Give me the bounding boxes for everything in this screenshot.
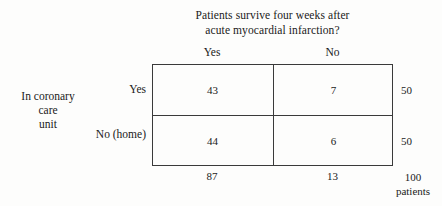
table-cell-yes-no: 7	[274, 65, 393, 115]
column-header-no: No	[272, 46, 393, 58]
grand-total-unit: patients	[385, 184, 441, 198]
contingency-table-figure: Patients survive four weeks after acute …	[0, 0, 442, 206]
column-header-yes: Yes	[152, 46, 272, 58]
row-header-yes: Yes	[60, 83, 146, 95]
column-total-no: 13	[272, 170, 393, 182]
row-total-no-home: 50	[401, 135, 435, 147]
column-group-title-line-1: Patients survive four weeks after	[152, 8, 393, 23]
column-group-title: Patients survive four weeks after acute …	[152, 8, 393, 38]
row-total-yes: 50	[401, 84, 435, 96]
row-group-label-line-2: care	[8, 103, 88, 117]
grand-total: 100 patients	[385, 170, 441, 198]
table-grid: 43 7 44 6	[152, 64, 393, 166]
table-cell-yes-yes: 43	[153, 65, 272, 115]
row-header-no-home: No (home)	[60, 128, 146, 140]
column-total-yes: 87	[152, 170, 272, 182]
table-cell-nohome-no: 6	[274, 116, 393, 166]
table-cell-nohome-yes: 44	[153, 116, 272, 166]
row-group-label: In coronary care unit	[8, 89, 88, 131]
column-group-title-line-2: acute myocardial infarction?	[152, 23, 393, 38]
grand-total-value: 100	[385, 170, 441, 184]
